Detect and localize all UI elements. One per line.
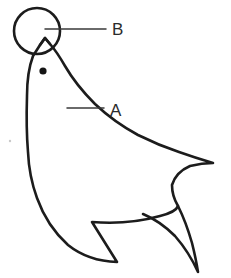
paper-speck	[9, 140, 11, 142]
seal-line-drawing: B A	[0, 0, 231, 278]
label-a: A	[110, 101, 122, 120]
paper-background	[0, 0, 231, 278]
label-b: B	[112, 20, 124, 39]
figure-canvas: B A	[0, 0, 231, 278]
eye-dot	[39, 67, 46, 74]
